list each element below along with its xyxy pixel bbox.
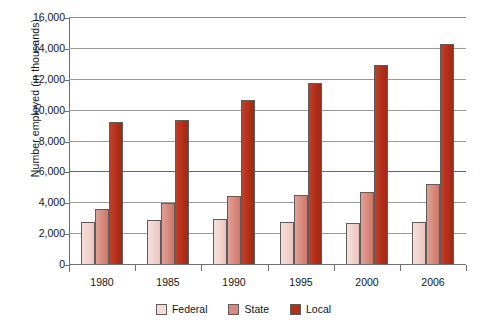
bar-local-1995 — [308, 83, 322, 265]
y-axis-tick-label: 16,000 — [5, 11, 65, 23]
x-axis-label-1985: 1985 — [138, 276, 198, 288]
bar-group — [213, 18, 255, 265]
x-axis-tick-mark — [334, 265, 335, 271]
x-axis-label-2006: 2006 — [403, 276, 463, 288]
bar-group — [147, 18, 189, 265]
legend-item-state: State — [228, 303, 269, 315]
x-axis-tick-mark — [400, 265, 401, 271]
x-axis-tick-mark — [201, 265, 202, 271]
y-axis-tick-mark — [64, 111, 69, 112]
bar-local-1980 — [109, 122, 123, 265]
y-axis-tick-label: 4,000 — [5, 196, 65, 208]
x-axis-tick-mark — [466, 265, 467, 271]
bar-local-2006 — [440, 44, 454, 265]
y-axis-tick-label: 10,000 — [5, 104, 65, 116]
legend-swatch-state — [228, 304, 239, 315]
y-axis-tick-label: 0 — [5, 258, 65, 270]
y-axis-tick-mark — [64, 203, 69, 204]
bar-groups — [69, 18, 466, 265]
bar-state-2006 — [426, 184, 440, 265]
x-axis-label-1990: 1990 — [204, 276, 264, 288]
bar-group — [280, 18, 322, 265]
x-axis-label-1995: 1995 — [271, 276, 331, 288]
legend-swatch-federal — [156, 304, 167, 315]
bar-federal-1985 — [147, 220, 161, 265]
legend-label-local: Local — [306, 303, 331, 315]
bar-state-1980 — [95, 209, 109, 265]
legend-label-federal: Federal — [172, 303, 208, 315]
bar-federal-2006 — [412, 222, 426, 265]
plot-area — [69, 18, 466, 265]
y-axis-tick-label: 6,000 — [5, 165, 65, 177]
legend-swatch-local — [290, 304, 301, 315]
y-axis-tick-label: 8,000 — [5, 135, 65, 147]
bar-federal-1990 — [213, 219, 227, 265]
bar-group — [412, 18, 454, 265]
y-axis-tick-label: 14,000 — [5, 42, 65, 54]
bar-federal-2000 — [346, 223, 360, 265]
bar-state-1985 — [161, 203, 175, 265]
x-axis: 198019851990199520002006 — [69, 265, 466, 295]
x-axis-tick-mark — [135, 265, 136, 271]
y-axis-tick-label: 2,000 — [5, 227, 65, 239]
x-axis-tick-mark — [268, 265, 269, 271]
x-axis-label-2000: 2000 — [337, 276, 397, 288]
bar-state-1990 — [227, 196, 241, 265]
legend-item-federal: Federal — [156, 303, 208, 315]
y-axis-tick-mark — [64, 172, 69, 173]
legend-item-local: Local — [290, 303, 331, 315]
bar-local-2000 — [374, 65, 388, 265]
y-axis-tick-mark — [64, 234, 69, 235]
bar-group — [81, 18, 123, 265]
bar-state-1995 — [294, 195, 308, 265]
bar-federal-1995 — [280, 222, 294, 265]
bar-local-1985 — [175, 120, 189, 265]
bar-local-1990 — [241, 100, 255, 265]
y-axis-tick-mark — [64, 80, 69, 81]
bar-state-2000 — [360, 192, 374, 265]
y-axis-tick-mark — [64, 18, 69, 19]
x-axis-label-1980: 1980 — [72, 276, 132, 288]
y-axis-tick-label: 12,000 — [5, 73, 65, 85]
bar-group — [346, 18, 388, 265]
bar-federal-1980 — [81, 222, 95, 265]
chart-legend: FederalStateLocal — [0, 303, 487, 315]
y-axis-tick-mark — [64, 142, 69, 143]
legend-label-state: State — [244, 303, 269, 315]
bar-chart: Number employed (in thousands) 02,0004,0… — [0, 0, 487, 334]
x-axis-tick-mark — [69, 265, 70, 271]
y-axis-tick-mark — [64, 49, 69, 50]
